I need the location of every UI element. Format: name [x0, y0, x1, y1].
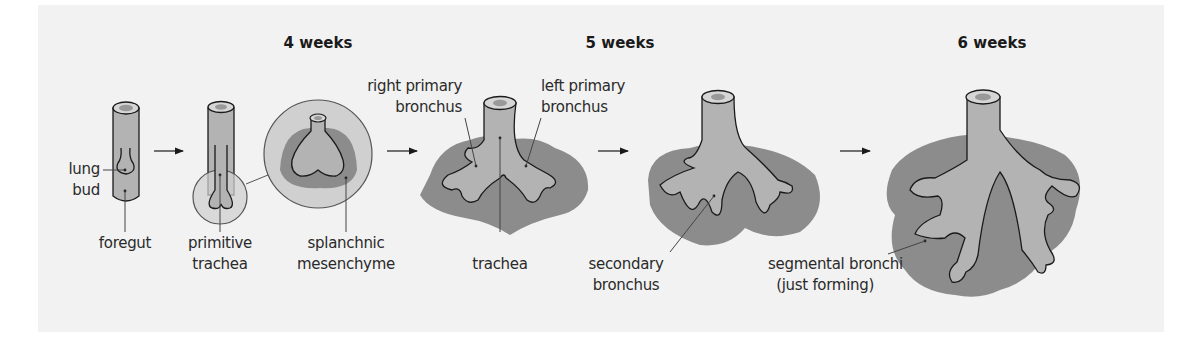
heading-4-weeks: 4 weeks	[284, 34, 353, 52]
label-trachea: trachea	[472, 254, 527, 275]
heading-5-weeks: 5 weeks	[586, 34, 655, 52]
label-left-primary-bronchus: left primarybronchus	[541, 76, 625, 118]
foregut-tube	[103, 102, 139, 232]
label-splanchnic-mesenchyme: splanchnicmesenchyme	[297, 233, 395, 275]
label-segmental-bronchi: segmental bronchi(just forming)	[768, 254, 874, 296]
five-week-secondary	[648, 91, 820, 253]
primitive-trachea	[193, 100, 372, 232]
heading-6-weeks: 6 weeks	[958, 34, 1027, 52]
label-lung-bud: lungbud	[68, 159, 100, 201]
label-primitive-trachea: primitivetrachea	[188, 233, 252, 275]
label-secondary-bronchus: secondarybronchus	[588, 254, 663, 296]
label-right-primary-bronchus: right primarybronchus	[366, 76, 462, 118]
six-week-lung	[887, 90, 1080, 297]
label-foregut: foregut	[99, 233, 151, 254]
